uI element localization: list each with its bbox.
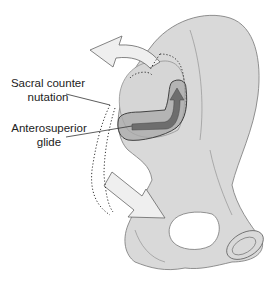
sacral-label-line2: nutation <box>8 90 88 104</box>
sacral-counter-nutation-label: Sacral counter nutation <box>8 76 88 104</box>
sacral-label-line1: Sacral counter <box>8 76 88 90</box>
counter-nutation-arrow <box>90 36 160 68</box>
glide-label-line1: Anterosuperior <box>8 121 90 135</box>
obturator-foramen <box>169 212 219 249</box>
anterosuperior-glide-label: Anterosuperior glide <box>8 121 90 149</box>
glide-label-line2: glide <box>8 135 90 149</box>
